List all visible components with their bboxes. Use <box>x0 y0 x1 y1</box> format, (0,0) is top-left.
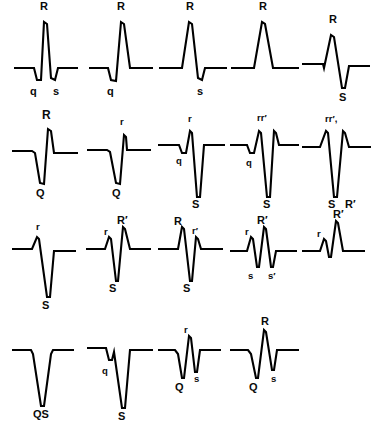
label-r1c2-R: R <box>117 1 125 12</box>
label-r4c4-R: R <box>261 316 269 327</box>
waveform-cell-r3c2: r R′ S <box>85 215 157 325</box>
waveform-cell-r1c1: R q s <box>10 0 82 105</box>
label-r3c5-r: r <box>317 229 321 239</box>
waveform-row-2: R Q r Q r q S rr′ q S <box>0 105 375 215</box>
waveform-cell-r2c5: rr′, S R′ <box>301 105 373 215</box>
qrs-nomenclature-figure: R q s R q R s R <box>0 0 375 430</box>
waveform-cell-r1c4: R <box>229 0 301 105</box>
label-r4c3-Q: Q <box>175 382 184 393</box>
waveform-cell-r1c3: R s <box>157 0 229 105</box>
waveform-cell-r1c2: R q <box>85 0 157 105</box>
label-r3c4-r: r <box>245 227 249 237</box>
label-r3c3-R: R <box>174 216 182 227</box>
waveform-trace-r1c5 <box>301 0 373 105</box>
label-r3c1-r: r <box>36 222 40 232</box>
label-r3c4-s: s <box>248 271 253 281</box>
label-r3c2-r: r <box>104 227 108 237</box>
waveform-cell-r3c5: r R′ <box>301 215 373 325</box>
waveform-cell-r4c3: r Q s <box>157 330 229 430</box>
label-r1c2-q: q <box>107 86 114 97</box>
label-r1c5-S: S <box>339 92 346 103</box>
label-r3c2-S: S <box>109 283 116 294</box>
label-r4c3-r: r <box>184 325 188 335</box>
waveform-trace-r3c5 <box>301 215 373 325</box>
waveform-cell-r4c2: q S <box>85 330 157 430</box>
label-r2c2-r: r <box>120 117 124 127</box>
waveform-cell-r3c3: R r′ S <box>157 215 229 325</box>
label-r3c4-R-prime: R′ <box>257 215 268 226</box>
label-r1c3-s: s <box>197 86 203 97</box>
waveform-cell-r3c1: r S <box>10 215 82 325</box>
label-r2c1-Q: Q <box>36 188 45 199</box>
waveform-row-4: QS q S r Q s R Q s <box>0 330 375 430</box>
label-r3c3-r-prime: r′ <box>192 226 198 236</box>
waveform-cell-r2c4: rr′ q S <box>229 105 301 215</box>
label-r2c3-r: r <box>188 114 192 124</box>
label-r2c4-q: q <box>246 158 252 168</box>
label-r2c4-S: S <box>263 199 270 210</box>
waveform-cell-r4c1: QS <box>10 330 82 430</box>
label-r4c2-S: S <box>118 411 125 422</box>
label-r3c3-S: S <box>183 283 190 294</box>
label-r2c4-rr-prime: rr′ <box>257 113 267 123</box>
label-r1c1-s: s <box>53 86 59 97</box>
label-r1c1-q: q <box>30 86 37 97</box>
waveform-cell-r2c2: r Q <box>85 105 157 215</box>
label-r1c5-R: R <box>329 14 337 25</box>
label-r2c2-Q: Q <box>112 188 121 199</box>
waveform-trace-r1c3 <box>157 0 229 105</box>
waveform-trace-r4c4 <box>229 330 301 430</box>
waveform-row-3: r S r R′ S R r′ S r R′ <box>0 215 375 325</box>
label-r1c4-R: R <box>259 1 267 12</box>
waveform-cell-r4c4: R Q s <box>229 330 301 430</box>
label-r2c5-rr-prime: rr′, <box>325 114 337 124</box>
label-r2c5-R-prime: R′ <box>345 199 356 210</box>
label-r4c2-q: q <box>102 366 108 376</box>
label-r2c3-q: q <box>176 156 182 166</box>
waveform-trace-r1c1 <box>10 0 82 105</box>
label-r3c4-s-prime: s′ <box>268 271 276 281</box>
label-r4c1-QS: QS <box>33 409 49 420</box>
label-r3c1-S: S <box>42 300 49 311</box>
waveform-trace-r1c4 <box>229 0 301 105</box>
label-r3c2-R-prime: R′ <box>117 215 128 226</box>
waveform-trace-r3c4 <box>229 215 301 325</box>
label-r2c3-S: S <box>192 199 199 210</box>
waveform-row-1: R q s R q R s R <box>0 0 375 105</box>
label-r2c1-R: R <box>42 109 51 121</box>
waveform-trace-r4c3 <box>157 330 229 430</box>
waveform-trace-r3c2 <box>85 215 157 325</box>
label-r1c3-R: R <box>186 1 194 12</box>
waveform-trace-r1c2 <box>85 0 157 105</box>
waveform-cell-r2c3: r q S <box>157 105 229 215</box>
waveform-cell-r1c5: R S <box>301 0 373 105</box>
waveform-cell-r2c1: R Q <box>10 105 82 215</box>
label-r3c5-R-prime: R′ <box>333 209 344 220</box>
waveform-cell-r3c4: r R′ s s′ <box>229 215 301 325</box>
label-r4c4-Q: Q <box>249 382 258 393</box>
label-r4c3-s: s <box>194 374 199 384</box>
label-r1c1-R: R <box>40 1 48 12</box>
label-r4c4-s: s <box>271 374 276 384</box>
